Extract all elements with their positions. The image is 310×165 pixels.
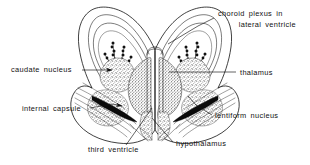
label-caudate-nucleus: caudate nucleus [11, 65, 72, 74]
label-lentiform-nucleus: lentiform nucleus [215, 111, 278, 120]
label-internal-capsule: internal capsule [22, 104, 81, 113]
label-thalamus: thalamus [240, 68, 273, 77]
label-third-ventricle: third ventricle [88, 145, 139, 154]
label-choroid-plexus-line2: lateral ventricle [239, 20, 296, 29]
diagram-canvas: choroid plexus in lateral ventricle caud… [0, 0, 310, 165]
cerebral-outline [71, 7, 239, 143]
label-hypothalamus: hypothalamus [176, 139, 226, 148]
label-choroid-plexus-line1: choroid plexus in [218, 9, 283, 18]
